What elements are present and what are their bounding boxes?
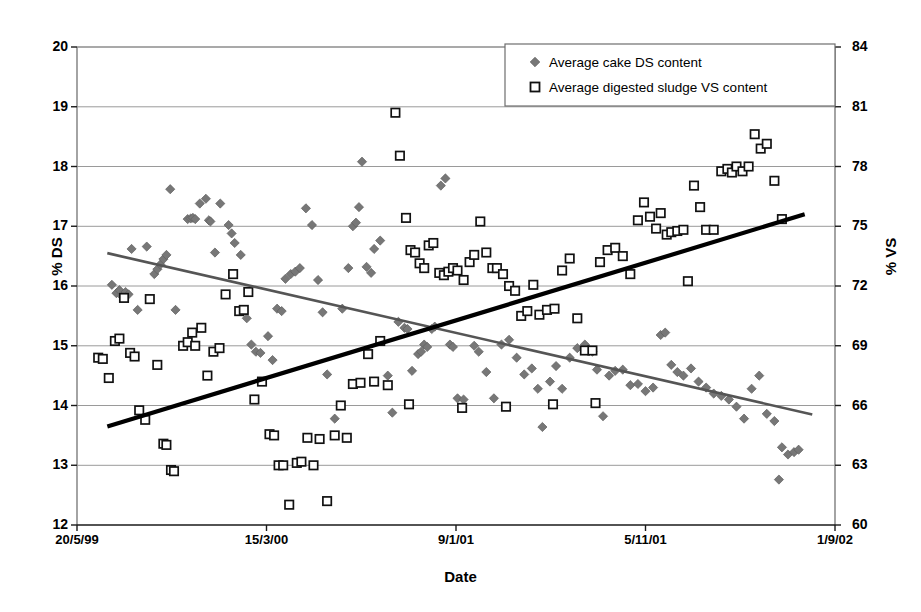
data-point-square	[364, 350, 372, 358]
data-point-diamond	[407, 366, 416, 375]
data-point-square	[153, 361, 161, 369]
data-point-square	[679, 226, 687, 234]
data-point-diamond	[520, 370, 529, 379]
data-point-square	[591, 399, 599, 407]
data-point-square	[549, 400, 557, 408]
data-point-diamond	[436, 181, 445, 190]
data-point-square	[297, 458, 305, 466]
data-point-diamond	[344, 263, 353, 272]
data-point-square	[323, 497, 331, 505]
data-point-square	[405, 400, 413, 408]
data-point-square	[684, 277, 692, 285]
data-point-square	[751, 130, 759, 138]
data-point-diamond	[538, 422, 547, 431]
data-point-square	[453, 266, 461, 274]
data-point-diamond	[127, 244, 136, 253]
series-digested-vs-points	[94, 109, 786, 509]
data-point-square	[476, 217, 484, 225]
data-point-square	[120, 294, 128, 302]
data-point-square	[502, 403, 510, 411]
data-point-diamond	[777, 443, 786, 452]
data-point-square	[652, 224, 660, 232]
data-point-square	[566, 254, 574, 262]
data-point-square	[191, 342, 199, 350]
data-point-diamond	[482, 367, 491, 376]
data-point-square	[619, 252, 627, 260]
data-point-square	[303, 434, 311, 442]
data-point-square	[511, 287, 519, 295]
data-point-diamond	[694, 377, 703, 386]
data-point-diamond	[354, 203, 363, 212]
data-point-diamond	[230, 238, 239, 247]
data-point-diamond	[224, 220, 233, 229]
data-point-diamond	[667, 360, 676, 369]
data-point-square	[710, 226, 718, 234]
data-point-diamond	[504, 335, 513, 344]
data-point-diamond	[533, 384, 542, 393]
data-point-diamond	[545, 377, 554, 386]
data-point-square	[115, 334, 123, 342]
data-point-diamond	[171, 305, 180, 314]
data-point-square	[470, 251, 478, 259]
data-point-square	[370, 377, 378, 385]
data-point-diamond	[263, 332, 272, 341]
data-point-diamond	[107, 280, 116, 289]
data-point-diamond	[770, 416, 779, 425]
data-point-diamond	[236, 250, 245, 259]
data-point-square	[657, 209, 665, 217]
data-point-square	[429, 239, 437, 247]
data-point-diamond	[388, 408, 397, 417]
data-point-square	[523, 307, 531, 315]
data-point-square	[550, 305, 558, 313]
data-point-diamond	[633, 379, 642, 388]
data-point-square	[203, 371, 211, 379]
data-point-square	[458, 404, 466, 412]
data-point-square	[250, 395, 258, 403]
data-point-square	[356, 379, 364, 387]
data-point-square	[634, 216, 642, 224]
data-point-square	[343, 434, 351, 442]
data-point-square	[130, 352, 138, 360]
data-point-diamond	[732, 402, 741, 411]
data-point-square	[396, 152, 404, 160]
data-point-square	[229, 270, 237, 278]
data-point-square	[285, 501, 293, 509]
data-point-square	[690, 181, 698, 189]
data-point-square	[626, 270, 634, 278]
data-point-square	[270, 431, 278, 439]
data-point-square	[770, 177, 778, 185]
data-point-square	[240, 306, 248, 314]
data-point-diamond	[227, 229, 236, 238]
data-point-diamond	[323, 370, 332, 379]
data-point-diamond	[527, 364, 536, 373]
data-point-square	[696, 203, 704, 211]
data-point-square	[215, 344, 223, 352]
data-point-square	[105, 374, 113, 382]
data-point-square	[763, 140, 771, 148]
data-point-square	[221, 290, 229, 298]
data-point-diamond	[755, 371, 764, 380]
data-point-square	[244, 288, 252, 296]
data-point-diamond	[558, 384, 567, 393]
data-point-diamond	[747, 384, 756, 393]
data-point-square	[529, 281, 537, 289]
data-point-square	[279, 461, 287, 469]
data-point-diamond	[774, 475, 783, 484]
data-point-square	[588, 346, 596, 354]
data-point-diamond	[551, 361, 560, 370]
data-point-diamond	[357, 157, 366, 166]
data-point-square	[482, 248, 490, 256]
data-point-square	[744, 162, 752, 170]
data-point-diamond	[370, 244, 379, 253]
data-point-square	[411, 248, 419, 256]
data-point-square	[596, 258, 604, 266]
data-point-square	[420, 264, 428, 272]
data-point-square	[99, 355, 107, 363]
data-point-diamond	[268, 355, 277, 364]
data-point-diamond	[686, 364, 695, 373]
data-point-square	[309, 461, 317, 469]
data-point-diamond	[247, 340, 256, 349]
chart-container: % DS % VS Date 1260136314661569167217751…	[0, 0, 921, 612]
data-point-square	[640, 198, 648, 206]
data-point-square	[337, 401, 345, 409]
